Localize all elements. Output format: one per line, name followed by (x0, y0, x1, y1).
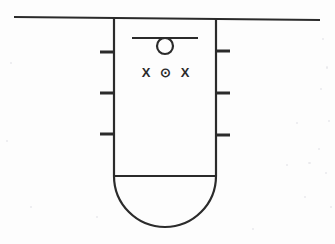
wall-tick-marks (100, 51, 230, 135)
field-symbol-x-left: X (142, 65, 151, 80)
ground-surface-line (14, 17, 320, 20)
field-symbol-dot: ⊙ (160, 65, 171, 80)
shaft-diagram: X⊙X (0, 0, 335, 244)
semicircular-base (114, 176, 216, 227)
field-direction-symbols: X⊙X (142, 65, 190, 80)
diagram-canvas: X⊙X (0, 0, 335, 244)
suspended-circle (157, 38, 173, 54)
field-symbol-x-right: X (181, 65, 190, 80)
